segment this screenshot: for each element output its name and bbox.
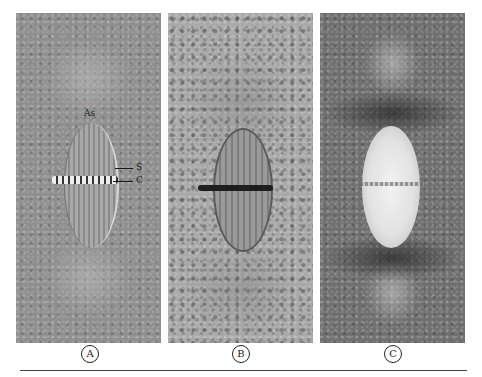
metaphase-plate — [360, 182, 424, 186]
annotation-spindle: S — [136, 162, 142, 172]
panel-label-b: B — [232, 345, 250, 363]
panel-label-a: A — [81, 345, 99, 363]
aster-top — [16, 18, 161, 138]
panel-label-c: C — [384, 345, 402, 363]
micrograph-panel-b — [168, 13, 313, 343]
birefringent-spindle — [362, 126, 420, 248]
annotation-line-spindle — [115, 168, 133, 169]
annotation-chromosomes: C — [136, 175, 143, 185]
micrograph-panel-c — [320, 13, 465, 343]
annotation-line-chromosomes — [113, 181, 133, 182]
metaphase-plate — [198, 185, 273, 191]
spindle — [64, 123, 119, 248]
bottom-rule — [20, 370, 467, 371]
metaphase-plate — [52, 176, 118, 184]
annotation-aster: As — [84, 108, 95, 118]
micrograph-panel-a: As S C — [16, 13, 161, 343]
